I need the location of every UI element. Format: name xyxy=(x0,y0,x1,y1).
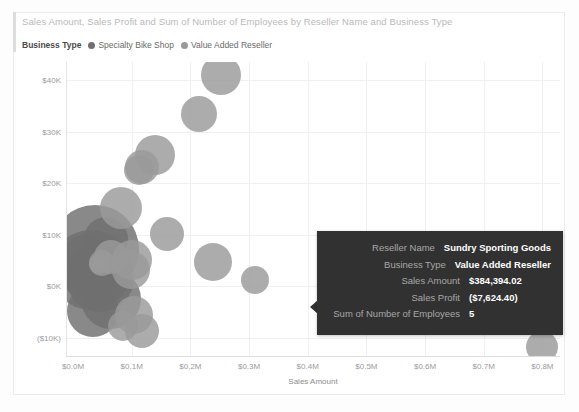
x-axis-title: Sales Amount xyxy=(66,377,560,386)
y-axis-tick-label: $30K xyxy=(42,127,61,136)
data-bubble[interactable] xyxy=(181,96,217,132)
chart-title: Sales Amount, Sales Profit and Sum of Nu… xyxy=(22,16,452,27)
x-axis-ticks: $0.0M$0.1M$0.2M$0.3M$0.4M$0.5M$0.6M$0.7M… xyxy=(66,362,560,376)
tooltip-field-label: Sum of Number of Employees xyxy=(327,307,469,320)
powerbi-scatter-visual: Sales Amount, Sales Profit and Sum of Nu… xyxy=(0,0,579,412)
x-axis-tick-label: $0.0M xyxy=(62,362,84,371)
data-bubble[interactable] xyxy=(124,155,154,185)
legend-swatch-icon xyxy=(88,42,95,49)
data-bubble[interactable] xyxy=(91,257,105,271)
legend-item-label: Specialty Bike Shop xyxy=(98,40,174,50)
y-axis-tick-label: $10K xyxy=(42,230,61,239)
tooltip-row: Sum of Number of Employees5 xyxy=(327,307,551,320)
tooltip-row: Reseller NameSundry Sporting Goods xyxy=(327,241,551,254)
x-axis-tick-label: $0.2M xyxy=(179,362,201,371)
tooltip-field-label: Business Type xyxy=(327,258,455,271)
data-bubble[interactable] xyxy=(100,187,142,229)
legend-swatch-icon xyxy=(181,42,188,49)
x-axis-tick-label: $0.8M xyxy=(531,362,553,371)
tooltip-field-label: Sales Profit xyxy=(327,291,469,304)
tooltip-field-label: Sales Amount xyxy=(327,274,469,287)
tooltip-field-value: 5 xyxy=(469,307,474,320)
legend-item-label: Value Added Reseller xyxy=(191,40,272,50)
y-axis-tick-label: ($10K) xyxy=(37,333,61,342)
x-axis-tick-label: $0.6M xyxy=(414,362,436,371)
x-axis-tick-label: $0.3M xyxy=(238,362,260,371)
x-axis-line xyxy=(66,356,560,357)
data-bubble[interactable] xyxy=(108,311,138,341)
tooltip-row: Sales Profit($7,624.40) xyxy=(327,291,551,304)
data-bubble[interactable] xyxy=(201,62,241,95)
y-axis-line xyxy=(66,62,67,356)
y-axis-tick-label: $20K xyxy=(42,179,61,188)
tooltip-row: Business TypeValue Added Reseller xyxy=(327,258,551,271)
y-axis-tick-label: $0K xyxy=(47,282,61,291)
data-bubble[interactable] xyxy=(150,217,184,251)
y-axis-tick-label: $40K xyxy=(42,76,61,85)
x-axis-tick-label: $0.4M xyxy=(297,362,319,371)
tooltip-field-value: ($7,624.40) xyxy=(469,291,518,304)
data-point-tooltip: Reseller NameSundry Sporting GoodsBusine… xyxy=(317,231,563,335)
y-axis-ticks: $40K$30K$20K$10K$0K($10K) xyxy=(16,62,61,356)
data-bubble[interactable] xyxy=(241,266,269,294)
legend: Business Type Specialty Bike Shop Value … xyxy=(22,40,272,50)
tooltip-field-value: Value Added Reseller xyxy=(455,258,551,271)
tooltip-field-value: Sundry Sporting Goods xyxy=(444,241,551,254)
x-axis-tick-label: $0.1M xyxy=(121,362,143,371)
data-bubble[interactable] xyxy=(194,243,232,281)
tooltip-field-label: Reseller Name xyxy=(327,241,444,254)
visual-accent-bar xyxy=(13,12,16,52)
tooltip-field-value: $384,394.02 xyxy=(469,274,522,287)
tooltip-row: Sales Amount$384,394.02 xyxy=(327,274,551,287)
x-axis-tick-label: $0.7M xyxy=(473,362,495,371)
legend-item-specialty-bike-shop[interactable]: Specialty Bike Shop xyxy=(88,40,174,50)
x-axis-tick-label: $0.5M xyxy=(355,362,377,371)
legend-title: Business Type xyxy=(22,40,81,50)
legend-item-value-added-reseller[interactable]: Value Added Reseller xyxy=(181,40,272,50)
